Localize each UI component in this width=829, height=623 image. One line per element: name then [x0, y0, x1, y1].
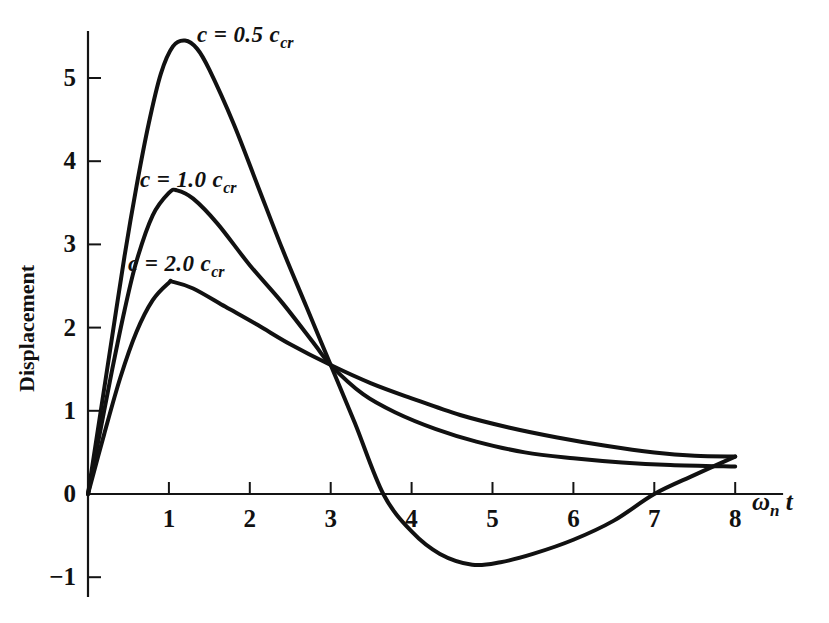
- curve-label-1-text: c = 1.0 c: [140, 167, 223, 192]
- x-axis-title-omega: ω: [752, 488, 770, 515]
- x-tick-label-8: 8: [715, 506, 755, 531]
- curve-label-2: c = 2.0 ccr: [128, 252, 224, 280]
- x-axis-title-t: t: [786, 488, 793, 515]
- chart-figure: 543210−1 12345678 c = 0.5 ccr c = 1.0 cc…: [0, 0, 829, 623]
- curve-label-2-text: c = 2.0 c: [128, 251, 211, 276]
- x-tick-label-1: 1: [149, 506, 189, 531]
- y-tick-label-5: 5: [26, 65, 76, 90]
- curve-label-0-subscript: cr: [280, 34, 293, 51]
- x-tick-label-6: 6: [553, 506, 593, 531]
- x-axis-title-subscript: n: [770, 501, 779, 520]
- x-axis-title: ωn t: [752, 489, 793, 519]
- x-tick-label-2: 2: [230, 506, 270, 531]
- y-tick-label-0: 0: [26, 481, 76, 506]
- curve-label-1-subscript: cr: [223, 179, 236, 196]
- x-tick-label-7: 7: [634, 506, 674, 531]
- x-tick-label-5: 5: [473, 506, 513, 531]
- y-axis-title: Displacement: [16, 265, 38, 392]
- y-tick-label-4: 4: [26, 148, 76, 173]
- y-tick-label-1: 1: [26, 398, 76, 423]
- y-tick-label--1: −1: [26, 564, 76, 589]
- x-tick-label-3: 3: [311, 506, 351, 531]
- axes-group: [88, 32, 782, 596]
- x-tick-label-4: 4: [392, 506, 432, 531]
- curve-label-1: c = 1.0 ccr: [140, 168, 236, 196]
- curve-label-2-subscript: cr: [211, 263, 224, 280]
- curve-series-1: [88, 190, 735, 494]
- curve-label-0-text: c = 0.5 c: [197, 22, 280, 47]
- y-tick-label-3: 3: [26, 231, 76, 256]
- curve-label-0: c = 0.5 ccr: [197, 23, 293, 51]
